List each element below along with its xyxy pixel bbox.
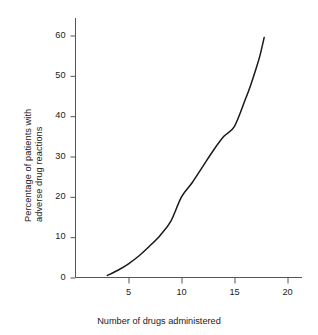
y-tick-label: 20 [42, 191, 66, 201]
y-tick-label: 0 [42, 272, 66, 282]
series-line-adverse-drug-reactions [107, 38, 264, 276]
y-tick-label: 10 [42, 231, 66, 241]
x-tick-label: 15 [223, 287, 247, 297]
y-tick-label: 30 [42, 151, 66, 161]
chart-plot-area [0, 0, 318, 335]
y-axis-title-line-1: Percentage of patients with [23, 109, 33, 222]
x-axis-title: Number of drugs administered [0, 316, 318, 326]
x-axis-ticks [129, 278, 288, 284]
y-axis-ticks [71, 36, 76, 278]
chart-figure: Percentage of patients with adverse drug… [0, 0, 318, 335]
x-tick-label: 20 [276, 287, 300, 297]
y-tick-label: 40 [42, 110, 66, 120]
x-tick-label: 5 [117, 287, 141, 297]
y-axis-title-line-2: adverse drug reactions [34, 127, 44, 222]
x-tick-label: 10 [170, 287, 194, 297]
y-tick-label: 50 [42, 70, 66, 80]
y-tick-label: 60 [42, 30, 66, 40]
